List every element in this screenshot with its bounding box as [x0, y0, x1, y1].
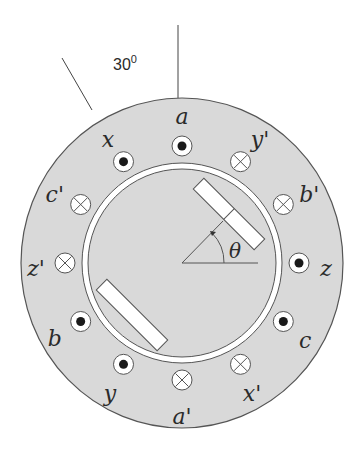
theta-label: θ — [229, 239, 241, 263]
conductor-label: y' — [250, 127, 269, 152]
current-out-dot-icon — [119, 360, 128, 369]
reference-line-30deg — [62, 58, 92, 110]
current-out-dot-icon — [178, 142, 187, 151]
current-out-dot-icon — [76, 317, 85, 326]
generator-cross-section-diagram: 300 θ ay'b'zcx'a'ybz'c'x — [0, 0, 363, 454]
conductor-label: c' — [46, 182, 64, 207]
conductor-label: z — [319, 256, 332, 281]
conductor-label: a — [175, 104, 188, 129]
conductor-label: z' — [26, 256, 45, 281]
conductor-label: y — [103, 381, 117, 406]
conductor-label: x' — [243, 381, 261, 406]
current-out-dot-icon — [119, 157, 128, 166]
conductor-label: b' — [299, 182, 319, 207]
conductor-label: b — [48, 326, 62, 351]
conductor-label: c — [299, 328, 311, 353]
current-out-dot-icon — [279, 317, 288, 326]
angle-30-label: 300 — [113, 53, 137, 73]
conductor-label: a' — [172, 404, 191, 429]
conductor-label: x — [102, 127, 115, 152]
current-out-dot-icon — [295, 259, 304, 268]
